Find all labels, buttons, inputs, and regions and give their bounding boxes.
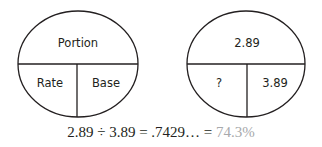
- equation: 2.89 ÷ 3.89 = .7429… = 74.3%: [0, 124, 322, 141]
- formula-bottom-left-label: Rate: [37, 76, 63, 90]
- formula-bottom-right-label: Base: [92, 76, 120, 90]
- formula-top-label: Portion: [58, 36, 98, 50]
- example-bottom-left-label: ?: [216, 76, 222, 90]
- equation-result: 74.3%: [216, 124, 255, 140]
- equation-expression: 2.89 ÷ 3.89 = .7429… =: [67, 124, 216, 140]
- example-bottom-right-label: 3.89: [262, 76, 288, 90]
- formula-circle: Portion Rate Base: [18, 11, 138, 117]
- example-top-label: 2.89: [234, 36, 260, 50]
- example-circle: 2.89 ? 3.89: [187, 11, 305, 117]
